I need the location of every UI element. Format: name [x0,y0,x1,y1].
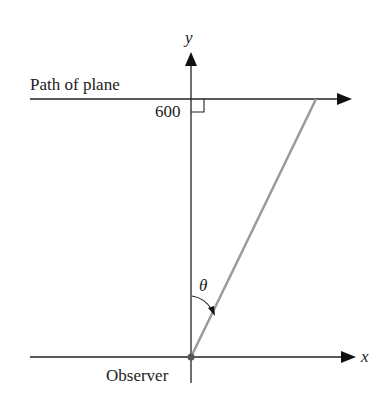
plane-path-label: Path of plane [30,75,120,94]
y-axis-arrow-icon [185,52,197,66]
x-axis-label: x [360,347,369,366]
sightline [191,99,316,357]
observer-point [188,354,195,361]
right-angle-marker [191,99,204,112]
height-label: 600 [155,102,181,121]
y-axis-label: y [183,28,193,47]
angle-label: θ [199,276,207,295]
observer-label: Observer [106,366,169,385]
x-axis-arrow-icon [341,351,356,363]
plane-path-arrow-icon [337,93,352,105]
diagram: x y Path of plane 600 θ Observer [0,0,389,409]
